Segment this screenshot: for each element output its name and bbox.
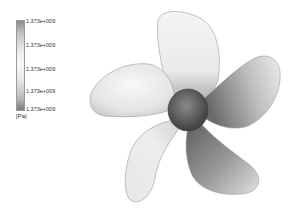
legend-label-4: 1.373e+009: [26, 88, 55, 94]
legend-label-3: 1.373e+009: [26, 66, 55, 72]
hub: [168, 89, 208, 131]
legend-label-max: 1.373e+009: [26, 18, 55, 24]
blade-bottom-left: [125, 120, 182, 202]
propeller-render: [70, 0, 295, 216]
blade-bottom-right: [186, 120, 259, 194]
propeller-icon: [70, 0, 295, 216]
legend-unit: [Pa]: [16, 113, 27, 119]
color-scale-bar: [16, 20, 25, 111]
pressure-legend: 1.373e+009 1.373e+009 1.373e+009 1.373e+…: [0, 0, 70, 140]
blade-left: [90, 64, 175, 117]
legend-label-min: 1.373e+009: [26, 106, 55, 112]
legend-label-2: 1.373e+009: [26, 42, 55, 48]
